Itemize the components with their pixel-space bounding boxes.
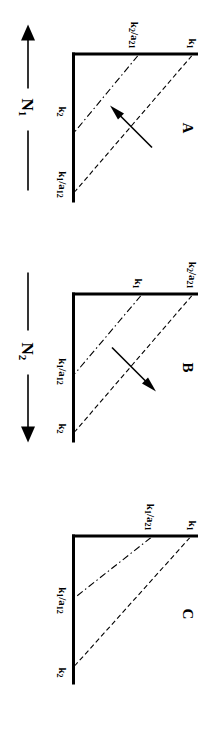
- panel-c-plot-area: [75, 537, 198, 684]
- panel-a-trajectory-arrow: [110, 105, 152, 147]
- panel-a: A k1 k2/a21 k2 k1/a12: [54, 18, 204, 214]
- panel-a-isocline-1: [75, 55, 192, 191]
- panel-b-plot-area: [75, 295, 198, 442]
- n1-axis-label: N1: [19, 98, 36, 116]
- panel-b-xlabel-k2: k2: [57, 423, 68, 433]
- n2-axis-label: N2: [19, 342, 36, 360]
- panel-b-xlabel-k1-a12: k1/a12: [57, 358, 68, 385]
- panel-c: C k1 k1/a21 k1/a12 k2: [54, 500, 204, 696]
- panel-a-isocline-2: [75, 55, 138, 131]
- panel-c-xlabel-k2: k2: [57, 667, 68, 677]
- panel-c-ylabel-k1-a21: k1/a21: [145, 503, 156, 530]
- panel-a-xlabel-k2: k2: [57, 106, 68, 116]
- figure-canvas: A k1 k2/a21 k2 k1/a12 B: [0, 0, 212, 741]
- panel-a-plot-area: [75, 55, 198, 202]
- panel-c-isocline-1: [75, 537, 190, 665]
- n2-axis-arrow-group: N2: [10, 258, 42, 448]
- panel-a-ylabel-k1: k1: [187, 38, 198, 48]
- panel-c-ylabel-k1: k1: [187, 520, 198, 530]
- panel-b-ylabel-k2-a21: k2/a21: [187, 261, 198, 288]
- panel-b-isocline-1: [75, 295, 192, 431]
- panel-b-trajectory-arrow: [112, 347, 156, 391]
- n1-axis-arrow-group: N1: [10, 18, 42, 198]
- panel-c-isocline-2: [75, 537, 151, 597]
- panel-c-xlabel-k1-a12: k1/a12: [57, 587, 68, 614]
- panel-a-ylabel-k2-a21: k2/a21: [129, 21, 140, 48]
- panel-b-isocline-2: [75, 295, 141, 373]
- panel-b-ylabel-k1: k1: [133, 278, 144, 288]
- panel-b: B k2/a21 k1 k1/a12 k2: [54, 258, 204, 454]
- panel-a-xlabel-k1-a12: k1/a12: [57, 171, 68, 198]
